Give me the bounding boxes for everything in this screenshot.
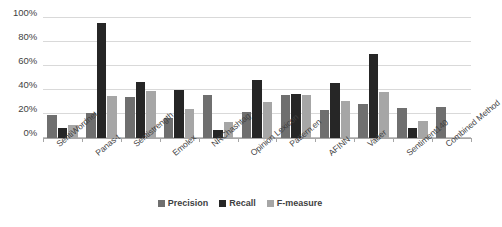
y-axis-tick-label: 20%: [18, 104, 37, 114]
legend-label: F-measure: [277, 199, 323, 208]
legend-swatch-icon: [267, 200, 274, 207]
legend-item-fmeasure[interactable]: F-measure: [267, 199, 323, 208]
y-axis-tick-label: 40%: [18, 80, 37, 90]
scan-artifact: [0, 0, 480, 10]
bar-group: [397, 18, 428, 138]
bar-group: [47, 18, 78, 138]
x-axis-labels: SentiWordnetPanas-tSentistrengthEmolexNR…: [0, 140, 480, 202]
y-axis-tick-label: 0%: [23, 128, 37, 138]
plot-area: [43, 18, 471, 138]
bar-group: [320, 18, 351, 138]
legend-item-precision[interactable]: Precision: [158, 199, 209, 208]
bar-precision: [125, 97, 135, 138]
bar-group: [358, 18, 389, 138]
y-axis: 0%20%40%60%80%100%: [0, 18, 41, 138]
bar-fmeasure: [341, 101, 351, 138]
legend-label: Recall: [229, 199, 256, 208]
bar-group: [125, 18, 156, 138]
bar-recall: [330, 83, 340, 138]
legend-swatch-icon: [219, 200, 226, 207]
bar-recall: [369, 54, 379, 138]
bar-precision: [203, 95, 213, 138]
bar-group: [203, 18, 234, 138]
y-axis-tick-label: 80%: [18, 32, 37, 42]
bar-precision: [397, 108, 407, 138]
bar-recall: [97, 23, 107, 138]
bar-recall: [408, 128, 418, 138]
y-axis-tick-label: 60%: [18, 56, 37, 66]
chart-legend: PrecisionRecallF-measure: [0, 199, 480, 208]
legend-swatch-icon: [158, 200, 165, 207]
legend-item-recall[interactable]: Recall: [219, 199, 256, 208]
bar-precision: [358, 104, 368, 138]
bar-precision: [47, 115, 57, 138]
bar-recall: [174, 90, 184, 138]
bar-recall: [252, 80, 262, 138]
bars-layer: [43, 18, 471, 138]
legend-label: Precision: [168, 199, 209, 208]
y-axis-tick-label: 100%: [13, 8, 37, 18]
